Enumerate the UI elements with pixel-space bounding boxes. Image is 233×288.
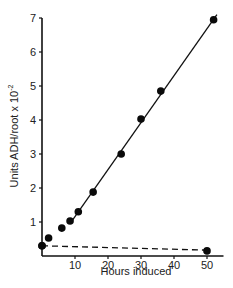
control-trend-line [42,246,210,250]
fit-lines [42,15,217,251]
y-tick-label: 6 [30,46,36,58]
y-tick-label: 3 [30,148,36,160]
axes: 12345671020304050 [30,12,224,271]
induced-data-point [117,150,125,158]
induced-data-point [66,217,74,225]
control-data-point [38,242,46,250]
induced-data-point [210,16,218,24]
y-axis-title: Units ADH/root x 10-2 [7,84,20,187]
y-tick-label: 1 [30,216,36,228]
y-tick-label: 4 [30,114,36,126]
induced-data-point [45,234,53,242]
control-data-point [203,247,211,255]
induced-data-point [157,87,165,95]
y-tick-label: 7 [30,12,36,24]
induced-data-point [89,188,97,196]
induced-data-point [137,115,145,123]
x-axis-title: Hours induced [101,265,172,277]
induced-data-point [75,208,83,216]
x-tick-label: 10 [69,259,81,271]
induced-data-point [58,224,66,232]
x-tick-label: 50 [201,259,213,271]
scatter-chart: 12345671020304050 Hours induced Units AD… [0,0,233,288]
y-tick-label: 2 [30,182,36,194]
y-tick-label: 5 [30,80,36,92]
